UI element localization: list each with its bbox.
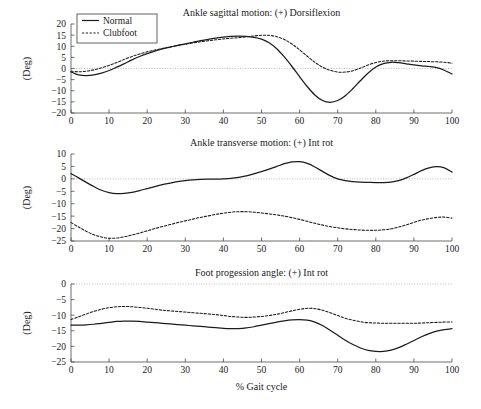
x-tick-label: 0 — [69, 365, 74, 375]
x-tick-label: 90 — [409, 116, 419, 126]
y-tick-label: −20 — [51, 108, 66, 118]
x-tick-label: 40 — [219, 244, 229, 254]
y-tick-label: −5 — [56, 295, 66, 305]
x-tick-label: 40 — [219, 116, 229, 126]
x-tick-label: 100 — [445, 244, 460, 254]
y-tick-label: −10 — [51, 199, 66, 209]
y-tick-label: 10 — [57, 149, 67, 159]
x-tick-label: 10 — [104, 244, 114, 254]
x-tick-label: 70 — [333, 365, 343, 375]
chart-panel-ankle-sagittal: Ankle sagittal motion: (+) Dorsiflexion(… — [0, 0, 481, 134]
y-tick-label: −15 — [51, 97, 66, 107]
x-tick-label: 30 — [181, 365, 191, 375]
series-line-normal — [71, 162, 452, 194]
y-axis-title: (Deg) — [21, 57, 33, 80]
x-tick-label: 70 — [333, 244, 343, 254]
x-tick-label: 0 — [69, 244, 74, 254]
x-tick-label: 50 — [257, 365, 267, 375]
x-tick-label: 40 — [219, 365, 229, 375]
y-tick-label: −5 — [56, 187, 66, 197]
y-axis-title: (Deg) — [21, 311, 33, 334]
x-tick-label: 90 — [409, 244, 419, 254]
y-tick-label: −15 — [51, 212, 66, 222]
x-tick-label: 20 — [142, 116, 152, 126]
y-tick-label: 20 — [57, 19, 67, 29]
x-tick-label: 50 — [257, 116, 267, 126]
chart-title: Ankle transverse motion: (+) Int rot — [190, 137, 333, 149]
y-axis-title: (Deg) — [21, 186, 33, 209]
y-tick-label: 10 — [57, 42, 67, 52]
y-tick-label: −20 — [51, 342, 66, 352]
x-tick-label: 50 — [257, 244, 267, 254]
y-tick-label: 15 — [57, 31, 67, 41]
series-line-normal — [71, 36, 452, 102]
x-tick-label: 20 — [142, 244, 152, 254]
x-tick-label: 100 — [445, 116, 460, 126]
x-tick-label: 80 — [371, 365, 381, 375]
chart-svg: Ankle transverse motion: (+) Int rot(Deg… — [0, 134, 481, 262]
x-tick-label: 10 — [104, 365, 114, 375]
chart-title: Ankle sagittal motion: (+) Dorsiflexion — [183, 7, 340, 19]
legend-label-clubfoot: Clubfoot — [103, 28, 137, 38]
chart-svg: Foot progession angle: (+) Int rot(Deg)0… — [0, 262, 481, 409]
y-tick-label: −10 — [51, 311, 66, 321]
x-tick-label: 10 — [104, 116, 114, 126]
chart-title: Foot progession angle: (+) Int rot — [195, 267, 328, 279]
y-tick-label: 0 — [61, 64, 66, 74]
y-tick-label: 5 — [61, 162, 66, 172]
y-tick-label: 0 — [61, 174, 66, 184]
x-tick-label: 80 — [371, 244, 381, 254]
series-line-normal — [71, 320, 452, 352]
x-axis-title: % Gait cycle — [236, 381, 288, 392]
x-tick-label: 60 — [295, 244, 305, 254]
x-tick-label: 80 — [371, 116, 381, 126]
x-tick-label: 70 — [333, 116, 343, 126]
chart-svg: Ankle sagittal motion: (+) Dorsiflexion(… — [0, 0, 481, 134]
x-tick-label: 90 — [409, 365, 419, 375]
y-tick-label: −25 — [51, 236, 66, 246]
y-tick-label: −20 — [51, 224, 66, 234]
y-tick-label: 5 — [61, 53, 66, 63]
gait-analysis-figure: Ankle sagittal motion: (+) Dorsiflexion(… — [0, 0, 481, 409]
chart-legend: NormalClubfoot — [77, 14, 157, 43]
legend-label-normal: Normal — [103, 16, 132, 26]
series-line-clubfoot — [71, 212, 452, 239]
y-tick-label: −5 — [56, 75, 66, 85]
y-tick-label: −15 — [51, 326, 66, 336]
x-tick-label: 100 — [445, 365, 460, 375]
x-tick-label: 20 — [142, 365, 152, 375]
chart-panel-foot-progression: Foot progession angle: (+) Int rot(Deg)0… — [0, 262, 481, 409]
x-tick-label: 0 — [69, 116, 74, 126]
y-tick-label: −10 — [51, 86, 66, 96]
x-tick-label: 60 — [295, 116, 305, 126]
x-tick-label: 30 — [181, 244, 191, 254]
x-tick-label: 30 — [181, 116, 191, 126]
y-tick-label: 0 — [61, 279, 66, 289]
x-tick-label: 60 — [295, 365, 305, 375]
y-tick-label: −25 — [51, 357, 66, 367]
chart-panel-ankle-transverse: Ankle transverse motion: (+) Int rot(Deg… — [0, 134, 481, 262]
